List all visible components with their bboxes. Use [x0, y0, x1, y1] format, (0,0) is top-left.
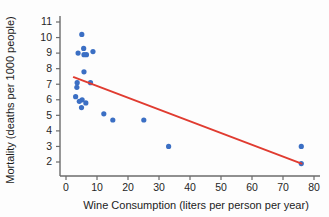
y-tick-label: 3	[46, 140, 52, 152]
y-tick-label: 5	[46, 109, 52, 121]
y-tick-label: 6	[46, 93, 52, 105]
data-point	[83, 100, 88, 105]
y-axis-ticks: 234567891011	[40, 15, 60, 167]
data-point	[81, 52, 86, 57]
y-tick-label: 10	[40, 31, 52, 43]
data-point	[75, 80, 80, 85]
x-tick-label: 50	[215, 181, 227, 193]
x-axis-ticks: 01020304050607080	[63, 176, 320, 193]
data-point	[81, 69, 86, 74]
x-tick-label: 20	[122, 181, 134, 193]
data-points	[73, 32, 304, 166]
data-point	[74, 85, 79, 90]
data-point	[141, 117, 146, 122]
chart-canvas: 234567891011 01020304050607080 Wine Cons…	[0, 0, 329, 217]
x-tick-label: 60	[246, 181, 258, 193]
data-point	[299, 144, 304, 149]
axes	[60, 16, 320, 176]
data-point	[75, 51, 80, 56]
data-point	[101, 111, 106, 116]
y-tick-label: 11	[41, 15, 52, 27]
y-tick-label: 2	[46, 155, 52, 167]
x-tick-label: 10	[91, 181, 103, 193]
x-tick-label: 30	[153, 181, 165, 193]
y-tick-label: 4	[46, 124, 52, 136]
y-axis-label: Mortality (deaths per 1000 people)	[4, 16, 16, 184]
x-tick-label: 0	[63, 181, 69, 193]
x-axis-label: Wine Consumption (liters per person per …	[83, 199, 309, 211]
x-tick-label: 80	[308, 181, 320, 193]
data-point	[81, 46, 86, 51]
data-point	[90, 49, 95, 54]
regression-line	[74, 77, 302, 163]
data-point	[110, 117, 115, 122]
data-point	[79, 105, 84, 110]
scatterplot-figure: 234567891011 01020304050607080 Wine Cons…	[0, 0, 329, 217]
data-point	[77, 99, 82, 104]
y-tick-label: 9	[46, 46, 52, 58]
y-tick-label: 8	[46, 62, 52, 74]
x-tick-label: 40	[184, 181, 196, 193]
data-point	[73, 94, 78, 99]
data-point	[166, 144, 171, 149]
data-point	[79, 32, 84, 37]
x-tick-label: 70	[277, 181, 289, 193]
y-tick-label: 7	[46, 78, 52, 90]
